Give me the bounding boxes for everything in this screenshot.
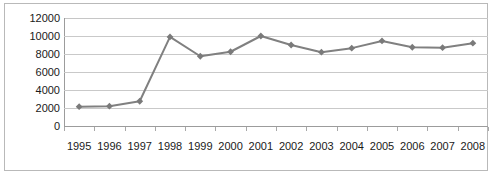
- x-axis-tick: [306, 127, 307, 131]
- x-axis-tick: [337, 127, 338, 131]
- data-point-marker: [348, 45, 355, 52]
- data-point-marker: [318, 49, 325, 56]
- x-axis-tick-label: 2008: [461, 140, 485, 152]
- x-axis-tick-label: 2003: [309, 140, 333, 152]
- data-point-marker: [469, 40, 476, 47]
- data-point-marker: [227, 48, 234, 55]
- y-axis-tick-label: 0: [13, 121, 60, 132]
- x-axis-tick: [155, 127, 156, 131]
- y-axis-labels: 12000 10000 8000 6000 4000 2000 0: [13, 4, 60, 144]
- x-axis-tick-label: 1998: [158, 140, 182, 152]
- x-axis-tick-label: 2000: [218, 140, 242, 152]
- x-axis-tick-label: 1997: [127, 140, 151, 152]
- x-axis-tick-label: 2005: [370, 140, 394, 152]
- y-axis-tick-label: 8000: [13, 49, 60, 60]
- x-axis-tick: [215, 127, 216, 131]
- x-axis-tick: [94, 127, 95, 131]
- x-axis-tick-label: 2004: [339, 140, 363, 152]
- x-axis-tick: [64, 127, 65, 131]
- x-axis-tick-label: 2001: [249, 140, 273, 152]
- x-axis-tick: [427, 127, 428, 131]
- x-axis-tick-label: 1999: [188, 140, 212, 152]
- plot-area: [64, 18, 488, 126]
- x-axis-tick-label: 2007: [430, 140, 454, 152]
- y-axis-tick-label: 10000: [13, 31, 60, 42]
- x-axis-tick: [397, 127, 398, 131]
- x-axis-tick-label: 1996: [97, 140, 121, 152]
- x-axis-tick: [246, 127, 247, 131]
- data-point-marker: [409, 44, 416, 51]
- data-point-marker: [439, 44, 446, 51]
- x-axis-tick-label: 2006: [400, 140, 424, 152]
- data-point-marker: [106, 103, 113, 110]
- chart-frame: 12000 10000 8000 6000 4000 2000 0 199519…: [4, 3, 488, 171]
- data-point-marker: [257, 33, 264, 40]
- data-point-marker: [136, 98, 143, 105]
- y-axis-tick-label: 2000: [13, 103, 60, 114]
- x-axis-tick: [367, 127, 368, 131]
- x-axis-tick: [488, 127, 489, 131]
- x-axis-tick-label: 2002: [279, 140, 303, 152]
- data-point-marker: [379, 38, 386, 45]
- x-axis-labels: 1995199619971998199920002001200220032004…: [64, 140, 488, 160]
- y-axis-tick-label: 4000: [13, 85, 60, 96]
- x-axis-tick-label: 1995: [67, 140, 91, 152]
- y-axis-tick-label: 6000: [13, 67, 60, 78]
- data-point-marker: [288, 42, 295, 49]
- chart-screenshot: 12000 10000 8000 6000 4000 2000 0 199519…: [0, 0, 494, 178]
- y-axis-tick-label: 12000: [13, 13, 60, 24]
- x-axis-tick: [458, 127, 459, 131]
- series-line-chart: [64, 18, 488, 126]
- x-axis-tick: [125, 127, 126, 131]
- x-axis-tick: [276, 127, 277, 131]
- data-point-marker: [76, 103, 83, 110]
- x-axis-tick: [185, 127, 186, 131]
